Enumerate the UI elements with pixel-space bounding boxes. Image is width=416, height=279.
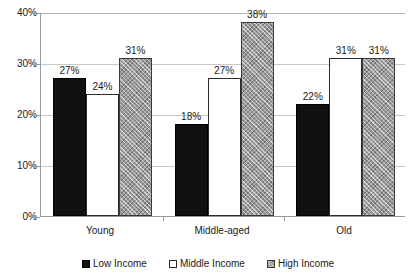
y-tick-mark (32, 115, 40, 116)
legend-swatch-icon (169, 260, 177, 268)
legend-label: Low Income (93, 258, 147, 269)
y-tick-mark (32, 166, 40, 167)
legend-label: High Income (278, 258, 334, 269)
legend-swatch-icon (267, 260, 275, 268)
bar-old-high-income[interactable] (362, 58, 395, 216)
x-axis-separator (284, 216, 285, 221)
legend-swatch-icon (82, 260, 90, 268)
legend-item-low-income[interactable]: Low Income (82, 258, 147, 269)
bar-value-label: 31% (369, 46, 389, 56)
x-tick-label-middle-aged: Middle-aged (194, 225, 249, 236)
bar-value-label: 38% (247, 10, 267, 20)
bar-young-low-income[interactable] (53, 78, 86, 216)
x-axis-separator (163, 216, 164, 221)
legend-label: Middle Income (180, 258, 245, 269)
y-tick-mark (32, 13, 40, 14)
y-tick-mark (32, 64, 40, 65)
plot-area: 27% 24% 31% 18% 27% 38% 22% 31% 31% (40, 13, 405, 217)
bar-group-old: 22% 31% 31% (284, 13, 406, 216)
bar-value-label: 18% (181, 112, 201, 122)
y-tick-mark (32, 217, 40, 218)
bar-young-middle-income[interactable] (86, 94, 119, 216)
legend-item-high-income[interactable]: High Income (267, 258, 334, 269)
x-tick-label-young: Young (86, 225, 114, 236)
legend-item-middle-income[interactable]: Middle Income (169, 258, 245, 269)
bar-chart: 40% 30% 20% 10% 0% 27% 24% 31% (0, 0, 416, 279)
chart-legend: Low Income Middle Income High Income (0, 258, 416, 269)
bar-old-middle-income[interactable] (329, 58, 362, 216)
bar-middleaged-low-income[interactable] (175, 124, 208, 216)
bar-value-label: 31% (336, 46, 356, 56)
bar-value-label: 27% (59, 66, 79, 76)
bar-middleaged-middle-income[interactable] (208, 78, 241, 216)
x-tick-label-old: Old (336, 225, 352, 236)
bar-value-label: 24% (92, 82, 112, 92)
bar-young-high-income[interactable] (119, 58, 152, 216)
bar-group-middle-aged: 18% 27% 38% (163, 13, 285, 216)
bar-value-label: 31% (125, 46, 145, 56)
bar-group-young: 27% 24% 31% (41, 13, 163, 216)
bar-old-low-income[interactable] (296, 104, 329, 216)
bar-middleaged-high-income[interactable] (241, 22, 274, 216)
bar-value-label: 27% (214, 66, 234, 76)
bar-value-label: 22% (303, 92, 323, 102)
